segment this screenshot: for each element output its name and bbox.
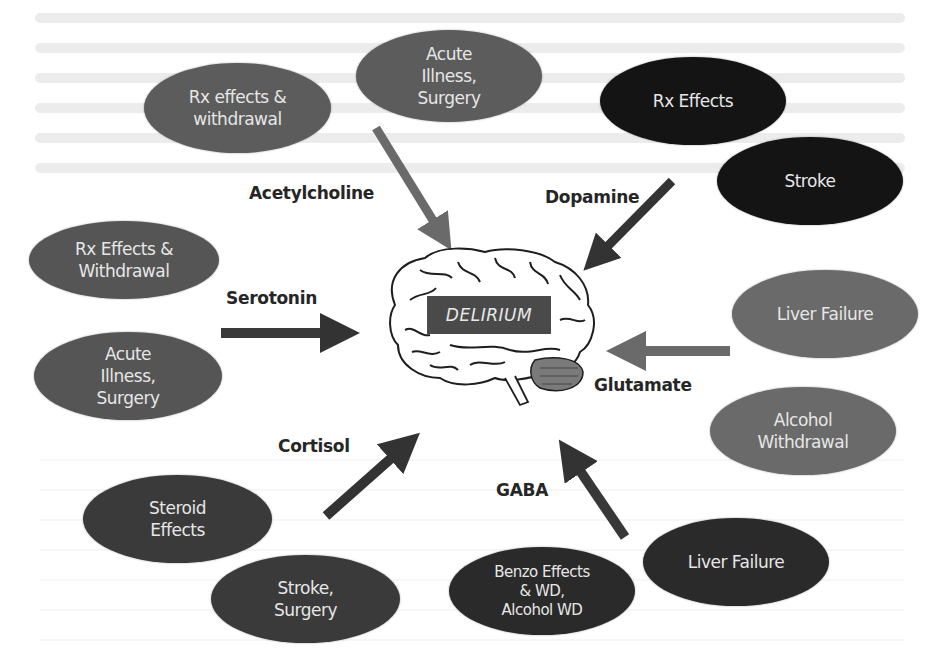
cause-ser-rx: Rx Effects & Withdrawal (29, 221, 219, 299)
cause-dop-stroke: Stroke (717, 137, 903, 225)
label-cortisol: Cortisol (278, 436, 350, 456)
cause-ach-acute: Acute Illness, Surgery (356, 30, 542, 122)
brainstem (505, 376, 528, 405)
cause-dop-rx: Rx Effects (600, 57, 786, 145)
label-acetylcholine: Acetylcholine (249, 183, 374, 203)
cause-gaba-liver: Liver Failure (643, 518, 829, 606)
label-serotonin: Serotonin (226, 288, 317, 308)
cause-glu-alcohol: Alcohol Withdrawal (710, 387, 896, 475)
delirium-label: DELIRIUM (427, 296, 551, 334)
cause-gaba-benzo: Benzo Effects & WD, Alcohol WD (449, 547, 635, 635)
cause-cor-stroke: Stroke, Surgery (211, 555, 400, 643)
cause-glu-liver: Liver Failure (732, 270, 918, 358)
cerebellum (531, 358, 583, 391)
label-glutamate: Glutamate (594, 375, 692, 395)
delirium-diagram: DELIRIUM Acetylcholine Dopamine Serotoni… (0, 0, 944, 658)
label-dopamine: Dopamine (545, 187, 639, 207)
cause-ser-acute: Acute Illness, Surgery (34, 332, 222, 420)
cause-cor-steroid: Steroid Effects (83, 475, 272, 563)
label-gaba: GABA (496, 480, 548, 500)
cause-ach-rx: Rx effects & withdrawal (144, 63, 331, 153)
